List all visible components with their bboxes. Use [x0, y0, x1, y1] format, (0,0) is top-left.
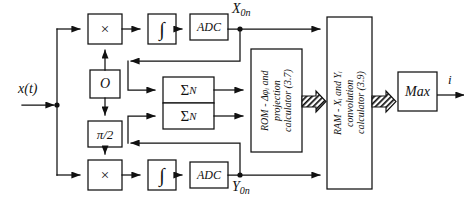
integrator-bottom-label: ∫	[148, 160, 176, 190]
accumulator-bottom-label: ΣN	[163, 103, 214, 129]
wire-feedback-to-accumulator-top	[128, 61, 155, 90]
phase-shifter-label: π/2	[88, 121, 122, 147]
adc-top-label: ADC	[190, 14, 228, 40]
junction-yon	[237, 172, 242, 177]
mixer-bottom-label: ×	[88, 160, 122, 190]
junction-input-split	[54, 102, 59, 107]
xon-signal-label: X0n	[232, 2, 251, 18]
block-diagram-canvas: x(t) X0n Y0n i × × ∫ ∫ ADC ADC O π/2 ΣN …	[0, 0, 473, 204]
yon-signal-label: Y0n	[232, 180, 250, 196]
integrator-top-label: ∫	[148, 14, 176, 44]
oscillator-label: O	[90, 70, 120, 98]
accumulator-top-label: ΣN	[163, 77, 214, 103]
bus-arrow-ram-to-max	[372, 91, 396, 112]
mixer-top-label: ×	[88, 14, 122, 44]
ram-label: RAM - Xᵢ and Yᵢ convolution calculator (…	[327, 17, 372, 189]
input-signal-label: x(t)	[18, 82, 37, 96]
adc-bottom-label: ADC	[190, 162, 228, 188]
junction-xon	[237, 26, 242, 31]
output-signal-label: i	[448, 73, 452, 86]
max-label: Max	[398, 72, 437, 111]
rom-label: ROM - Δφᵢ and projection calculator (3.7…	[251, 49, 302, 152]
wire-feedback-to-accumulator-bottom	[128, 116, 155, 143]
bus-arrow-rom-to-ram	[302, 91, 326, 112]
